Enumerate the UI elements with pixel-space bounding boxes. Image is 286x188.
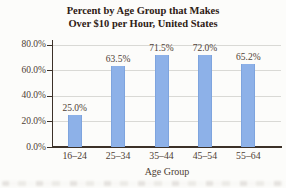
y-tick-mark — [47, 147, 52, 148]
x-tick-label: 45–54 — [183, 150, 226, 161]
bars-container: 25.0%63.5%71.5%72.0%65.2% — [53, 40, 270, 147]
y-tick-mark — [47, 96, 52, 97]
bar-slot: 71.5% — [140, 40, 183, 147]
y-tick-mark — [47, 45, 52, 46]
bar-chart-figure: Percent by Age Group that Makes Over $10… — [0, 0, 286, 188]
y-tick-label: 60.0% — [0, 64, 46, 77]
bar — [111, 66, 125, 147]
x-tick-label: 35–44 — [140, 150, 183, 161]
chart-title: Percent by Age Group that Makes Over $10… — [0, 4, 286, 30]
bar-value-label: 65.2% — [219, 52, 278, 62]
y-tick-mark — [47, 70, 52, 71]
y-tick-label: 0.0% — [0, 141, 46, 154]
bar — [198, 55, 212, 147]
y-tick-label: 40.0% — [0, 89, 46, 102]
y-tick-mark — [47, 121, 52, 122]
bar — [155, 55, 169, 147]
y-tick-label: 80.0% — [0, 38, 46, 51]
bar — [68, 115, 82, 147]
x-tick-label: 16–24 — [53, 150, 96, 161]
y-tick-label: 20.0% — [0, 115, 46, 128]
x-axis-tick-labels: 16–2425–3435–4445–5455–64 — [53, 150, 270, 161]
bar — [241, 64, 255, 147]
bar-slot: 65.2% — [227, 40, 270, 147]
chart-title-line-2: Over $10 per Hour, United States — [0, 17, 286, 30]
chart-title-line-1: Percent by Age Group that Makes — [0, 4, 286, 17]
x-axis-title: Age Group — [52, 166, 282, 177]
x-tick-label: 55–64 — [227, 150, 270, 161]
scan-artifact-band — [2, 181, 284, 186]
x-tick-label: 25–34 — [96, 150, 139, 161]
bar-slot: 63.5% — [96, 40, 139, 147]
